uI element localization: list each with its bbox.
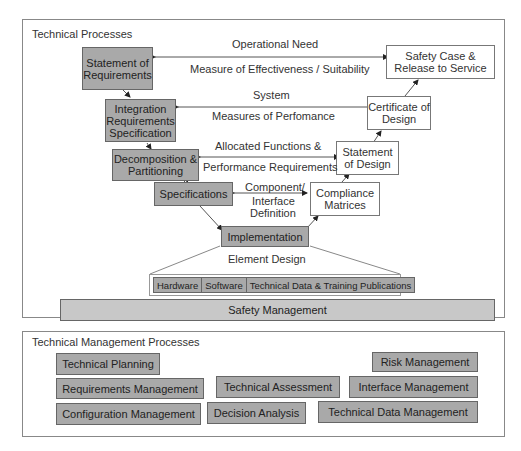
configuration-management-box: Configuration Management (56, 403, 201, 425)
arrow-cod-to-safety (405, 80, 418, 96)
integration-requirements-box: Integration Requirements Specification (105, 99, 176, 142)
label-element-design: Element Design (228, 253, 306, 265)
statement-of-design-box: Statement of Design (336, 141, 399, 175)
arrow-spec-to-impl (200, 206, 222, 230)
safety-management-bar: Safety Management (60, 299, 495, 321)
element-design-row: Hardware Software Technical Data & Train… (153, 277, 415, 293)
certificate-of-design-box: Certificate of Design (367, 96, 431, 130)
label-definition: Definition (250, 207, 296, 219)
element-design-right-line (310, 246, 400, 274)
arrow-sor-to-irs (123, 90, 130, 97)
technical-management-title: Technical Management Processes (32, 336, 200, 348)
label-measure-of-effectiveness: Measure of Effectiveness / Suitability (190, 63, 370, 75)
element-design-left-line (150, 246, 220, 274)
decision-analysis-box: Decision Analysis (207, 402, 306, 424)
technical-planning-box: Technical Planning (56, 353, 160, 375)
element-hardware: Hardware (154, 278, 202, 292)
label-interface: Interface (252, 195, 295, 207)
element-software: Software (202, 278, 247, 292)
risk-management-box: Risk Management (372, 352, 478, 372)
requirements-management-box: Requirements Management (56, 378, 204, 399)
label-system: System (253, 89, 290, 101)
statement-of-requirements-box: Statement of Requirements (82, 47, 153, 90)
label-performance-requirements: Performance Requirements (203, 161, 338, 173)
implementation-box: Implementation (221, 226, 309, 247)
technical-data-management-box: Technical Data Management (318, 401, 478, 423)
label-measures-of-performance: Measures of Perfomance (212, 110, 335, 122)
label-component: Component/ (245, 181, 305, 193)
label-allocated-functions: Allocated Functions & (215, 140, 321, 152)
technical-assessment-box: Technical Assessment (216, 376, 340, 398)
safety-case-box: Safety Case & Release to Service (386, 45, 495, 79)
interface-management-box: Interface Management (349, 376, 478, 398)
compliance-matrices-box: Compliance Matrices (310, 182, 380, 216)
label-operational-need: Operational Need (232, 38, 318, 50)
specifications-box: Specifications (154, 182, 233, 206)
decomposition-box: Decomposition & Partitioning (112, 149, 199, 181)
arrow-cm-to-sod (342, 174, 349, 182)
element-technical-data: Technical Data & Training Publications (247, 278, 415, 292)
